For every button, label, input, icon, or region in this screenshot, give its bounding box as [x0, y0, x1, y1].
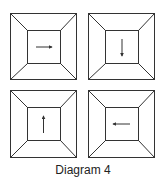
diagram-figure: [0, 0, 166, 160]
panel-top-right: [89, 14, 155, 80]
panel-bottom-right: [89, 91, 155, 158]
diagram-caption: Diagram 4: [0, 163, 166, 177]
panel-bottom-left: [11, 91, 77, 158]
panel-top-left: [11, 14, 77, 80]
